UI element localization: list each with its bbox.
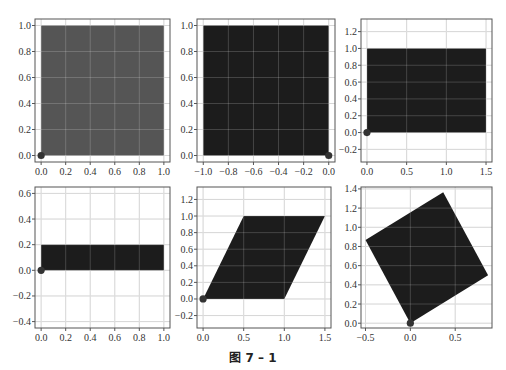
y-tick-label: 0.6 [19,188,32,199]
x-tick-label: 0.5 [400,166,413,177]
y-tick-label: 1.0 [345,43,358,54]
x-axis-ticks: −1.0−0.8−0.6−0.4−0.20.0 [194,162,335,177]
x-tick-label: −0.8 [219,166,237,177]
origin-marker [38,152,45,159]
y-tick-label: 0.4 [181,260,194,271]
subplot-4: 0.00.20.40.60.81.0−0.4−0.20.00.20.40.6 [13,187,170,343]
x-tick-label: 0.5 [237,332,250,343]
origin-marker [363,129,370,136]
x-tick-label: 0.4 [84,332,97,343]
x-tick-label: 0.5 [449,332,462,343]
y-tick-label: −0.2 [175,310,193,321]
x-tick-label: 0.8 [133,332,146,343]
y-tick-label: 0.2 [181,277,194,288]
x-tick-label: 0.2 [59,332,72,343]
x-tick-label: 0.0 [35,166,48,177]
transformed-shape [367,48,486,132]
y-axis-ticks: −0.20.00.20.40.60.81.01.2 [339,26,361,155]
y-tick-label: 0.0 [19,150,32,161]
y-tick-label: 1.0 [19,20,32,31]
subplot-2: −1.0−0.8−0.6−0.4−0.20.00.00.20.40.60.81.… [181,19,336,177]
x-tick-label: 0.4 [84,166,97,177]
x-tick-label: 0.0 [197,332,210,343]
x-axis-ticks: 0.00.51.01.5 [361,162,493,177]
transformed-shape [41,245,164,271]
y-tick-label: 1.2 [181,194,194,205]
y-tick-label: 1.4 [345,183,358,194]
y-tick-label: 0.6 [345,77,358,88]
x-tick-label: −0.4 [269,166,287,177]
x-axis-ticks: 0.00.51.01.5 [197,328,331,343]
y-tick-label: 0.8 [345,60,358,71]
x-tick-label: 1.0 [440,166,453,177]
x-tick-label: 1.0 [158,332,171,343]
y-axis-ticks: 0.00.20.40.60.81.0 [19,20,36,161]
subplot-5: 0.00.51.01.5−0.20.00.20.40.60.81.01.2 [175,187,331,343]
y-tick-label: 0.4 [345,279,358,290]
x-tick-label: 0.6 [109,332,122,343]
x-tick-label: −0.2 [295,166,313,177]
x-tick-label: 0.8 [133,166,146,177]
origin-marker [199,295,206,302]
subplot-6: −0.50.00.50.00.20.40.60.81.01.21.4 [345,183,493,343]
y-axis-ticks: −0.4−0.20.00.20.40.6 [13,188,35,327]
x-tick-label: 1.5 [480,166,493,177]
y-tick-label: 0.8 [345,241,358,252]
y-tick-label: 0.0 [181,293,194,304]
y-axis-ticks: 0.00.20.40.60.81.01.21.4 [345,183,362,328]
transformed-shape [41,26,164,156]
y-tick-label: 0.6 [19,72,32,83]
x-tick-label: −1.0 [194,166,212,177]
x-tick-label: 0.6 [109,166,122,177]
transformed-shape [203,216,325,299]
x-tick-label: −0.6 [244,166,262,177]
y-tick-label: −0.2 [13,290,31,301]
y-tick-label: 0.2 [345,299,358,310]
y-tick-label: 0.6 [181,72,194,83]
y-tick-label: 0.0 [345,318,358,329]
x-tick-label: 0.0 [404,332,417,343]
subplot-3: 0.00.51.01.5−0.20.00.20.40.60.81.01.2 [339,19,492,177]
y-tick-label: 0.8 [181,227,194,238]
figure: 0.00.20.40.60.81.00.00.20.40.60.81.0−1.0… [0,0,506,370]
y-tick-label: 1.2 [345,203,358,214]
y-axis-ticks: −0.20.00.20.40.60.81.01.2 [175,194,197,321]
y-tick-label: 0.8 [19,46,32,57]
transformed-shape [203,26,328,156]
y-tick-label: 0.6 [345,260,358,271]
x-axis-ticks: 0.00.20.40.60.81.0 [35,162,170,177]
y-tick-label: 1.0 [181,20,194,31]
x-tick-label: 1.0 [158,166,171,177]
x-tick-label: 0.0 [322,166,335,177]
x-axis-ticks: 0.00.20.40.60.81.0 [35,328,170,343]
x-tick-label: 1.5 [319,332,332,343]
y-tick-label: 1.0 [181,211,194,222]
y-tick-label: 0.0 [345,127,358,138]
y-tick-label: 0.2 [345,110,358,121]
y-tick-label: 0.4 [181,98,194,109]
origin-marker [407,320,414,327]
y-tick-label: −0.4 [13,316,31,327]
x-tick-label: −0.5 [356,332,374,343]
y-tick-label: 0.0 [181,150,194,161]
y-tick-label: 1.2 [345,26,358,37]
y-tick-label: 0.0 [19,265,32,276]
x-tick-label: 0.2 [59,166,72,177]
x-tick-label: 1.0 [278,332,291,343]
y-tick-label: 0.4 [19,98,32,109]
y-tick-label: 0.2 [19,239,32,250]
y-tick-label: −0.2 [339,144,357,155]
y-axis-ticks: 0.00.20.40.60.81.0 [181,20,198,161]
x-axis-ticks: −0.50.00.5 [356,328,461,343]
y-tick-label: 0.4 [19,214,32,225]
y-tick-label: 0.4 [345,93,358,104]
x-tick-label: 0.0 [35,332,48,343]
y-tick-label: 0.8 [181,46,194,57]
y-tick-label: 0.2 [19,124,32,135]
figure-caption: 图 7 – 1 [229,351,276,365]
origin-marker [325,152,332,159]
y-tick-label: 0.6 [181,244,194,255]
x-tick-label: 0.0 [361,166,374,177]
subplot-1: 0.00.20.40.60.81.00.00.20.40.60.81.0 [19,19,171,177]
origin-marker [38,267,45,274]
